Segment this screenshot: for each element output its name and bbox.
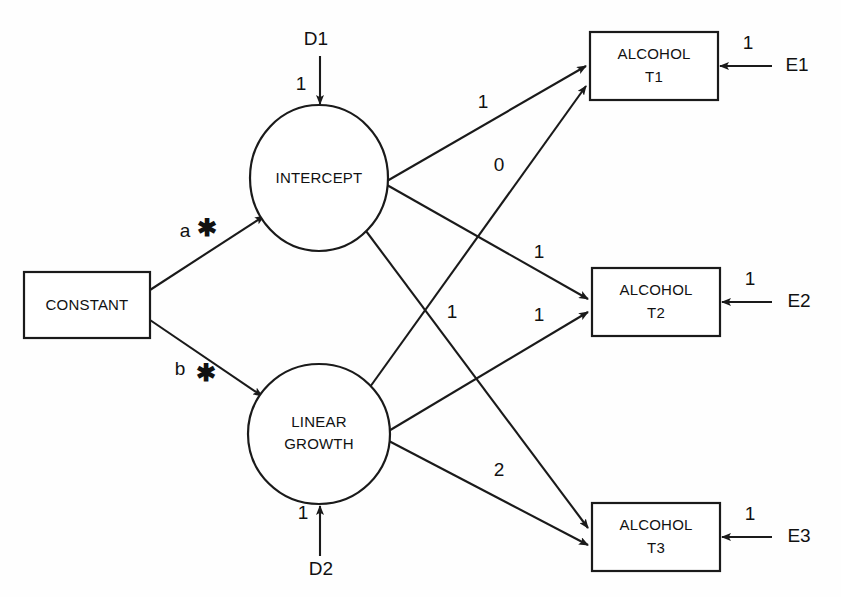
node-e1-label: E1 xyxy=(785,54,808,75)
coef-constant-to-linear-growth: b xyxy=(175,358,186,379)
node-alcohol-t1[interactable] xyxy=(590,32,718,100)
node-alcohol-t1-label-line2: T1 xyxy=(645,68,663,85)
node-d1-label: D1 xyxy=(304,28,328,49)
coef-e1-to-alcohol-t1: 1 xyxy=(743,32,754,53)
diagram-canvas: CONSTANT INTERCEPT LINEAR GROWTH ALCOHOL… xyxy=(0,0,841,597)
path-linear-growth-to-alcohol-t2 xyxy=(387,312,588,432)
node-alcohol-t3[interactable] xyxy=(592,503,720,571)
coef-linear-growth-to-alcohol-t3: 2 xyxy=(494,459,505,480)
sem-diagram: CONSTANT INTERCEPT LINEAR GROWTH ALCOHOL… xyxy=(0,0,841,597)
coef-intercept-to-alcohol-t2: 1 xyxy=(534,241,545,262)
node-e3-label: E3 xyxy=(787,525,810,546)
node-alcohol-t3-label-line1: ALCOHOL xyxy=(619,516,692,533)
coef-linear-growth-to-alcohol-t1: 0 xyxy=(494,154,505,175)
node-alcohol-t3-label-line2: T3 xyxy=(647,539,665,556)
node-intercept-label: INTERCEPT xyxy=(276,169,363,186)
coef-intercept-to-alcohol-t3: 1 xyxy=(447,301,458,322)
coef-d1-to-intercept: 1 xyxy=(296,73,307,94)
coef-e3-to-alcohol-t3: 1 xyxy=(745,503,756,524)
path-linear-growth-to-alcohol-t3 xyxy=(387,440,588,545)
coef-intercept-to-alcohol-t1: 1 xyxy=(478,91,489,112)
node-linear-growth-label-line1: LINEAR xyxy=(291,413,346,430)
coef-linear-growth-to-alcohol-t2: 1 xyxy=(534,304,545,325)
node-alcohol-t1-label-line1: ALCOHOL xyxy=(617,45,690,62)
node-e2-label: E2 xyxy=(787,290,810,311)
coef-d2-to-linear-growth: 1 xyxy=(298,502,309,523)
coef-constant-to-intercept: a xyxy=(180,220,191,241)
node-constant-label: CONSTANT xyxy=(46,296,129,313)
path-intercept-to-alcohol-t2 xyxy=(387,185,588,299)
node-alcohol-t2-label-line1: ALCOHOL xyxy=(619,281,692,298)
free-parameter-marker-b: ✱ xyxy=(196,359,216,386)
path-intercept-to-alcohol-t3 xyxy=(366,231,588,528)
node-alcohol-t2[interactable] xyxy=(592,268,720,336)
free-parameter-marker-a: ✱ xyxy=(197,214,217,241)
node-d2-label: D2 xyxy=(309,558,333,579)
coef-e2-to-alcohol-t2: 1 xyxy=(745,268,756,289)
node-alcohol-t2-label-line2: T2 xyxy=(647,304,665,321)
node-linear-growth-label-line2: GROWTH xyxy=(284,435,354,452)
path-intercept-to-alcohol-t1 xyxy=(387,66,586,181)
path-linear-growth-to-alcohol-t1 xyxy=(370,86,586,387)
